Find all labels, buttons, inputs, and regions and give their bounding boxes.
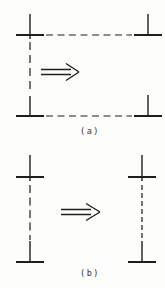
figure-canvas: (a) <box>0 0 165 288</box>
end-mark-top <box>128 155 156 181</box>
right-double-arrow-icon <box>41 64 79 81</box>
panel-b <box>16 155 156 262</box>
end-mark-bottom <box>128 241 156 262</box>
right-double-arrow-icon <box>61 204 100 221</box>
panel-b-label: (b) <box>80 268 100 278</box>
panel-a <box>16 14 162 116</box>
end-mark-top <box>16 155 44 181</box>
panel-a-label: (a) <box>80 126 100 136</box>
end-mark-bottom <box>16 241 44 262</box>
left-line <box>16 155 44 262</box>
right-line <box>128 155 156 262</box>
corner-mark-top-left <box>16 14 44 39</box>
line-diagram: (a) <box>0 0 165 288</box>
corner-mark-top-right <box>134 14 162 35</box>
corner-mark-bottom-right <box>134 95 162 116</box>
corner-mark-bottom-left <box>16 96 44 116</box>
